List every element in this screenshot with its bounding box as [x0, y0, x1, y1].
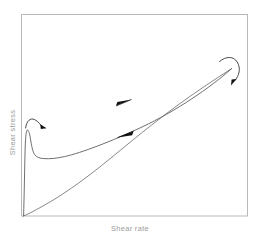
y-axis-label-wrap: Shear stress: [2, 0, 20, 241]
x-axis-label: Shear rate: [0, 224, 260, 233]
thixotropy-hysteresis-plot: [0, 0, 260, 241]
plot-frame: [22, 15, 248, 217]
figure-root: Shear stress Shear rate: [0, 0, 260, 241]
y-axis-label: Shear stress: [8, 97, 17, 169]
